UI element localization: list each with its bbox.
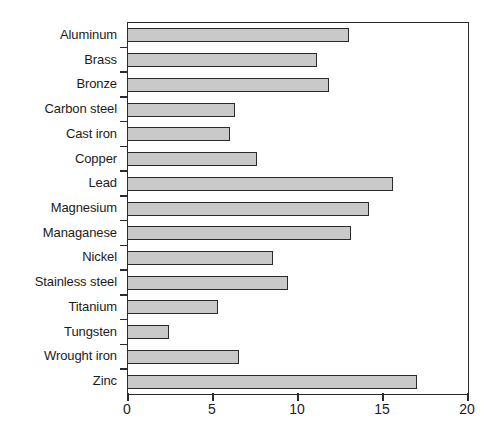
x-axis-tick [382, 393, 384, 401]
bar [128, 226, 351, 240]
bar [128, 251, 273, 265]
bar-row [128, 171, 468, 196]
y-axis-label: Stainless steel [35, 275, 117, 288]
bar-row [128, 345, 468, 370]
x-axis-tick [297, 393, 299, 401]
bar-row [128, 246, 468, 271]
bar-row [128, 122, 468, 147]
y-axis-label: Bronze [76, 77, 117, 90]
bar-row [128, 270, 468, 295]
bar-row [128, 295, 468, 320]
bar [128, 325, 169, 339]
bar [128, 177, 393, 191]
y-axis-label: Cast iron [66, 127, 117, 140]
bars-layer [128, 23, 468, 394]
y-axis-label: Wrought iron [44, 349, 117, 362]
bar-row [128, 72, 468, 97]
y-axis-label: Managanese [43, 226, 117, 239]
bar [128, 152, 257, 166]
x-axis-tick [212, 393, 214, 401]
y-axis-category-labels: AluminumBrassBronzeCarbon steelCast iron… [0, 22, 122, 393]
bar [128, 78, 329, 92]
bar-row [128, 97, 468, 122]
y-axis-label: Copper [75, 152, 117, 165]
bar-row [128, 23, 468, 48]
bar [128, 103, 235, 117]
y-axis-label: Titanium [68, 300, 117, 313]
y-axis-label-cell: Titanium [0, 294, 122, 319]
bar-row [128, 221, 468, 246]
bar [128, 53, 317, 67]
bar-row [128, 147, 468, 172]
bar-row [128, 48, 468, 73]
y-axis-label-cell: Magnesium [0, 195, 122, 220]
bar [128, 28, 349, 42]
bar [128, 350, 239, 364]
y-axis-label-cell: Carbon steel [0, 96, 122, 121]
bar-row [128, 320, 468, 345]
bar-row [128, 369, 468, 394]
y-axis-label: Zinc [93, 374, 117, 387]
y-axis-label-cell: Cast iron [0, 121, 122, 146]
plot-area [127, 22, 469, 395]
y-axis-label-cell: Bronze [0, 71, 122, 96]
x-axis-tick-labels: 05101520 [127, 401, 468, 425]
x-axis-label: 0 [123, 401, 131, 418]
y-axis-label: Nickel [82, 250, 117, 263]
y-axis-label-cell: Brass [0, 47, 122, 72]
bar-row [128, 196, 468, 221]
y-axis-label: Tungsten [64, 325, 117, 338]
y-axis-label-cell: Lead [0, 170, 122, 195]
y-axis-label-cell: Copper [0, 146, 122, 171]
x-axis-label: 10 [289, 401, 305, 418]
y-axis-label-cell: Nickel [0, 245, 122, 270]
y-axis-label-cell: Wrought iron [0, 344, 122, 369]
bar [128, 202, 369, 216]
y-axis-label-cell: Managanese [0, 220, 122, 245]
bar [128, 300, 218, 314]
y-axis-label: Magnesium [51, 201, 117, 214]
y-axis-label-cell: Zinc [0, 368, 122, 393]
y-axis-label-cell: Aluminum [0, 22, 122, 47]
bar [128, 127, 230, 141]
x-axis-tick [467, 393, 469, 401]
y-axis-label: Carbon steel [44, 102, 117, 115]
bar [128, 276, 288, 290]
bar-chart: AluminumBrassBronzeCarbon steelCast iron… [0, 0, 493, 444]
y-axis-label: Brass [84, 53, 117, 66]
bar [128, 375, 417, 389]
x-axis-tick-marks [127, 393, 468, 401]
y-axis-label-cell: Stainless steel [0, 269, 122, 294]
x-axis-label: 5 [208, 401, 216, 418]
y-axis-label: Lead [88, 176, 117, 189]
y-axis-label-cell: Tungsten [0, 319, 122, 344]
x-axis-label: 15 [374, 401, 390, 418]
y-axis-label: Aluminum [60, 28, 117, 41]
x-axis-tick [127, 393, 129, 401]
x-axis-label: 20 [459, 401, 475, 418]
